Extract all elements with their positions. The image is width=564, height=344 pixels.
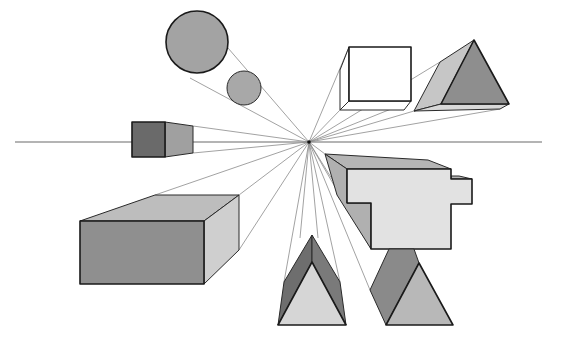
lower-center-prism xyxy=(278,235,346,325)
large-sphere xyxy=(166,11,228,73)
wireframe-cube xyxy=(340,47,411,110)
large-box xyxy=(80,195,239,284)
upper-triangular-prism xyxy=(414,40,509,111)
perspective-diagram xyxy=(0,0,564,344)
small-box xyxy=(132,122,193,157)
small-sphere xyxy=(227,71,261,105)
lower-right-prism xyxy=(370,249,453,325)
vanishing-point xyxy=(307,140,311,144)
